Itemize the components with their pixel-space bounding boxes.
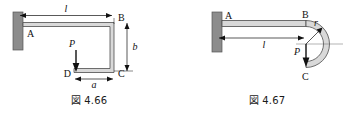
dimension-label-b: b bbox=[133, 41, 138, 52]
wall-support-hatch bbox=[13, 12, 23, 50]
figure-4-66-panel: l b a P A B C D 図 4.66 bbox=[0, 0, 178, 118]
load-label-p: P bbox=[293, 46, 300, 57]
dimension-arrow-l-right bbox=[106, 13, 112, 18]
dimension-arrow-a-left bbox=[75, 77, 81, 82]
point-label-c: C bbox=[302, 71, 309, 82]
point-label-a: A bbox=[225, 10, 233, 21]
wall-support-hatch bbox=[212, 12, 222, 52]
figure-4-66-caption: 図 4.66 bbox=[0, 92, 178, 107]
point-label-c: C bbox=[118, 68, 125, 79]
load-label-p: P bbox=[68, 38, 75, 49]
figure-4-67-drawing: l r P A B C bbox=[178, 0, 356, 92]
point-label-b: B bbox=[302, 9, 309, 20]
dimension-arrow-a-right bbox=[107, 77, 113, 82]
radius-line-r bbox=[306, 30, 320, 44]
dimension-label-r: r bbox=[314, 17, 318, 28]
figure-sheet: l b a P A B C D 図 4.66 bbox=[0, 0, 356, 118]
dimension-arrow-b-bottom bbox=[125, 65, 130, 71]
dimension-arrow-b-top bbox=[125, 23, 130, 29]
point-label-b: B bbox=[118, 12, 125, 23]
dimension-label-l: l bbox=[263, 39, 266, 50]
dimension-arrow-l-right bbox=[298, 36, 304, 41]
point-label-d: D bbox=[64, 68, 71, 79]
dimension-label-a: a bbox=[92, 79, 97, 90]
figure-4-67-panel: l r P A B C 図 4.67 bbox=[178, 0, 356, 118]
figure-4-67-caption: 図 4.67 bbox=[178, 92, 356, 107]
figure-4-66-drawing: l b a P A B C D bbox=[0, 0, 178, 92]
straight-beam-body bbox=[222, 21, 306, 27]
point-label-a: A bbox=[27, 28, 35, 39]
dimension-label-l: l bbox=[65, 3, 68, 14]
